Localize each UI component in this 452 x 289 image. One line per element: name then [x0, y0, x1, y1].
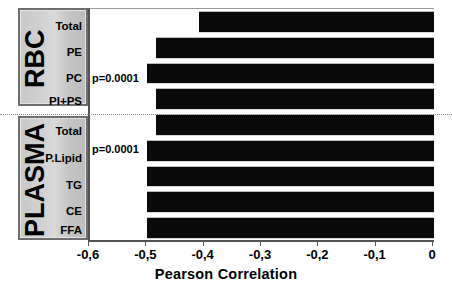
- bar: [156, 88, 434, 110]
- category-label-plasma-tg: TG: [66, 180, 82, 192]
- bars-container: [90, 9, 434, 241]
- category-label-plasma-ffa: FFA: [60, 225, 82, 237]
- p-value-annotation-plasma: p=0.0001: [92, 143, 139, 155]
- bar: [147, 217, 434, 239]
- category-label-rbc-total: Total: [55, 21, 82, 33]
- bar: [147, 191, 434, 213]
- x-axis-tick: [432, 240, 433, 246]
- x-axis-tick-label: -0,5: [134, 247, 156, 262]
- x-axis-tick-label: -0,2: [306, 247, 328, 262]
- x-axis-tick: [88, 240, 89, 246]
- category-label-plasma-total: Total: [55, 126, 82, 138]
- bar: [147, 63, 434, 85]
- x-axis-tick-label: -0,1: [363, 247, 385, 262]
- x-axis-tick-label: -0,6: [77, 247, 99, 262]
- group-panel-plasma: PLASMA Total P.Lipid TG CE FFA: [18, 116, 88, 240]
- bar: [147, 166, 434, 188]
- x-axis-line: [88, 240, 434, 242]
- group-divider: [0, 114, 452, 115]
- category-label-rbc-pe: PE: [67, 47, 82, 59]
- x-axis-tick: [260, 240, 261, 246]
- category-label-plasma-ce: CE: [66, 206, 82, 218]
- category-label-rbc-pips: PI+PS: [49, 96, 82, 108]
- x-axis-tick: [375, 240, 376, 246]
- x-axis-tick: [203, 240, 204, 246]
- x-axis-tick-label: -0,4: [191, 247, 213, 262]
- bar: [156, 37, 434, 59]
- x-axis-tick-label: 0: [428, 247, 435, 262]
- x-axis-tick: [145, 240, 146, 246]
- p-value-annotation-rbc: p=0.0001: [92, 72, 139, 84]
- bar: [147, 140, 434, 162]
- bar: [199, 11, 434, 33]
- x-axis-title: Pearson Correlation: [0, 266, 452, 282]
- category-label-plasma-plipid: P.Lipid: [45, 153, 82, 165]
- pearson-correlation-bar-chart: RBC Total PE PC PI+PS PLASMA Total P.Lip…: [0, 0, 452, 289]
- x-axis-tick-label: -0,3: [249, 247, 271, 262]
- group-label-rbc: RBC: [20, 10, 50, 108]
- group-label-plasma: PLASMA: [20, 118, 50, 242]
- x-axis-tick: [317, 240, 318, 246]
- group-panel-rbc: RBC Total PE PC PI+PS: [18, 8, 88, 106]
- category-label-rbc-pc: PC: [66, 73, 82, 85]
- plot-area: [88, 8, 434, 241]
- bar: [156, 114, 434, 136]
